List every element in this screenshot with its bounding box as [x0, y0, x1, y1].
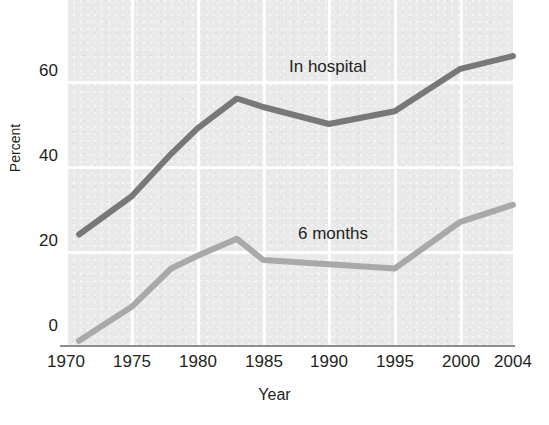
y-tick-label: 60	[20, 62, 58, 79]
vertical-gridline	[131, 0, 134, 345]
x-tick-label: 1970	[36, 352, 96, 372]
vertical-gridline	[460, 0, 463, 345]
vertical-gridline	[394, 0, 397, 345]
horizontal-gridline	[66, 166, 513, 169]
x-tick-label: 1975	[102, 352, 162, 372]
x-axis-label: Year	[0, 386, 549, 404]
vertical-gridline	[263, 0, 266, 345]
x-axis-ticks: 1970 1975 1980 1985 1990 1995 2000 2004	[0, 352, 549, 376]
y-tick-label: 0	[20, 317, 58, 334]
series-label-in-hospital: In hospital	[289, 57, 367, 76]
x-tick-label: 2004	[483, 352, 543, 372]
vertical-gridline	[66, 0, 68, 345]
horizontal-gridline	[66, 81, 513, 84]
series-label-6-months: 6 months	[298, 224, 368, 243]
vertical-gridline	[197, 0, 200, 345]
x-tick-label: 1985	[234, 352, 294, 372]
y-tick-label: 20	[20, 232, 58, 249]
horizontal-gridline	[66, 251, 513, 254]
plot-area	[66, 0, 513, 345]
y-tick-label: 40	[20, 147, 58, 164]
x-tick-label: 1980	[168, 352, 228, 372]
x-tick-label: 1990	[299, 352, 359, 372]
x-tick-label: 2000	[431, 352, 491, 372]
vertical-gridline	[328, 0, 331, 345]
y-axis-label: Percent	[7, 103, 23, 193]
x-axis-line	[60, 345, 515, 347]
x-tick-label: 1995	[365, 352, 425, 372]
chart-figure: In hospital 6 months 60 40 20 0 1970 197…	[0, 0, 549, 425]
